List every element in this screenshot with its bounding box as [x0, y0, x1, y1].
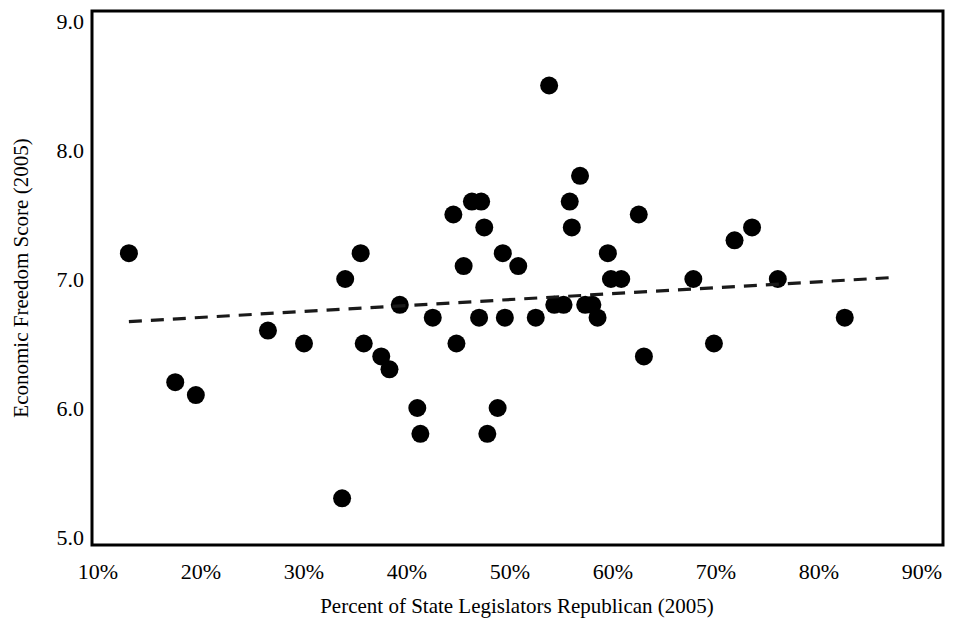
x-tick-label: 80%: [799, 559, 839, 584]
data-point: [352, 244, 370, 262]
data-point: [684, 270, 702, 288]
data-point: [478, 425, 496, 443]
data-point: [447, 335, 465, 353]
data-point: [571, 167, 589, 185]
data-point: [561, 193, 579, 211]
y-tick-label: 5.0: [57, 525, 85, 550]
x-tick-label: 50%: [490, 559, 530, 584]
x-tick-label: 20%: [181, 559, 221, 584]
x-tick-label: 90%: [902, 559, 942, 584]
data-point: [424, 309, 442, 327]
data-point: [455, 257, 473, 275]
x-tick-label: 40%: [387, 559, 427, 584]
data-point: [705, 335, 723, 353]
plot-frame: [92, 11, 943, 545]
data-point: [630, 206, 648, 224]
x-axis-title: Percent of State Legislators Republican …: [320, 594, 714, 618]
data-point: [743, 218, 761, 236]
data-point: [259, 322, 277, 340]
y-tick-label: 6.0: [57, 396, 85, 421]
data-point: [380, 360, 398, 378]
data-point: [489, 399, 507, 417]
data-point: [470, 309, 488, 327]
x-tick-label: 10%: [78, 559, 118, 584]
data-point: [295, 335, 313, 353]
scatter-plot-figure: 5.06.07.08.09.0 10%20%30%40%50%60%70%80%…: [0, 0, 972, 632]
y-tick-label: 9.0: [57, 9, 85, 34]
data-point: [527, 309, 545, 327]
data-point: [444, 206, 462, 224]
data-point: [472, 193, 490, 211]
data-point: [475, 218, 493, 236]
data-point: [166, 373, 184, 391]
y-axis-title: Economic Freedom Score (2005): [9, 138, 33, 417]
x-tick-label: 60%: [593, 559, 633, 584]
data-point: [355, 335, 373, 353]
x-tick-label: 70%: [696, 559, 736, 584]
data-points-group: [120, 77, 854, 508]
data-point: [555, 296, 573, 314]
data-point: [540, 77, 558, 95]
x-axis-tick-labels: 10%20%30%40%50%60%70%80%90%: [78, 559, 942, 584]
data-point: [612, 270, 630, 288]
data-point: [509, 257, 527, 275]
data-point: [120, 244, 138, 262]
data-point: [411, 425, 429, 443]
data-point: [187, 386, 205, 404]
data-point: [336, 270, 354, 288]
y-axis-tick-labels: 5.06.07.08.09.0: [57, 9, 85, 550]
data-point: [496, 309, 514, 327]
data-point: [333, 489, 351, 507]
data-point: [599, 244, 617, 262]
data-point: [726, 231, 744, 249]
data-point: [563, 218, 581, 236]
chart-canvas: 5.06.07.08.09.0 10%20%30%40%50%60%70%80%…: [0, 0, 972, 632]
data-point: [635, 347, 653, 365]
data-point: [836, 309, 854, 327]
y-tick-label: 7.0: [57, 267, 85, 292]
data-point: [494, 244, 512, 262]
x-tick-label: 30%: [284, 559, 324, 584]
y-tick-label: 8.0: [57, 138, 85, 163]
data-point: [408, 399, 426, 417]
data-point: [589, 309, 607, 327]
